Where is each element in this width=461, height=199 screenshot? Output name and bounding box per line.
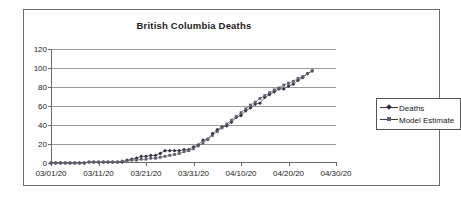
series-deaths xyxy=(49,69,314,165)
data-point xyxy=(211,134,214,137)
x-axis-tick-label: 04/10/20 xyxy=(225,169,256,178)
data-point xyxy=(206,138,209,141)
chart-title: British Columbia Deaths xyxy=(24,20,364,31)
data-point xyxy=(263,94,266,97)
data-point xyxy=(111,161,114,164)
data-point xyxy=(173,153,176,156)
series-plot xyxy=(51,49,336,163)
data-point xyxy=(163,149,167,153)
y-axis-tick-label: 120 xyxy=(34,45,47,54)
data-point xyxy=(278,87,281,90)
data-point xyxy=(301,75,304,78)
data-point xyxy=(297,77,300,80)
data-point xyxy=(254,101,257,104)
data-point xyxy=(149,157,152,160)
data-point xyxy=(268,91,271,94)
data-point xyxy=(287,84,291,88)
data-point xyxy=(192,147,195,150)
y-axis-tick-label: 40 xyxy=(38,121,47,130)
x-axis-tick-mark xyxy=(336,162,337,166)
plot-inner: 020406080100120 03/01/2003/11/2003/21/20… xyxy=(51,49,336,163)
legend-item-model-estimate: Model Estimate xyxy=(379,114,457,126)
data-point xyxy=(69,162,72,165)
data-point xyxy=(202,142,205,145)
data-point xyxy=(221,126,224,129)
data-point xyxy=(144,154,148,158)
data-point xyxy=(168,154,171,157)
data-point xyxy=(235,115,238,118)
data-point xyxy=(158,152,162,156)
data-point xyxy=(64,162,67,165)
data-point xyxy=(159,156,162,159)
data-point xyxy=(273,88,276,91)
data-point xyxy=(126,160,129,163)
data-point xyxy=(244,107,247,110)
data-point xyxy=(187,149,190,152)
y-axis-tick-label: 60 xyxy=(38,102,47,111)
data-point xyxy=(154,154,158,158)
data-point xyxy=(197,145,200,148)
data-point xyxy=(88,161,91,164)
chart-frame: British Columbia Deaths 020406080100120 … xyxy=(23,9,440,186)
data-point xyxy=(149,154,153,158)
data-point xyxy=(50,162,53,165)
data-point xyxy=(287,82,290,85)
data-point xyxy=(78,162,81,165)
data-point xyxy=(59,162,62,165)
data-point xyxy=(107,161,110,164)
legend-label-deaths: Deaths xyxy=(399,104,424,113)
data-point xyxy=(121,160,124,163)
y-axis-tick-label: 20 xyxy=(38,140,47,149)
data-point xyxy=(102,161,105,164)
y-axis-tick-label: 100 xyxy=(34,64,47,73)
data-point xyxy=(145,158,148,161)
data-point xyxy=(311,69,314,72)
data-point xyxy=(225,123,228,126)
data-point xyxy=(240,111,243,114)
x-axis-tick-label: 03/11/20 xyxy=(83,169,114,178)
data-point xyxy=(83,162,86,165)
data-point xyxy=(259,97,262,100)
data-point xyxy=(92,161,95,164)
data-point xyxy=(135,159,138,162)
x-axis-tick-label: 03/21/20 xyxy=(130,169,161,178)
data-point xyxy=(177,149,181,153)
y-axis-tick-label: 80 xyxy=(38,83,47,92)
data-point xyxy=(116,161,119,164)
data-point xyxy=(54,162,57,165)
legend-marker-square-icon xyxy=(379,115,399,125)
data-point xyxy=(168,149,172,153)
data-point xyxy=(306,72,309,75)
x-axis-tick-label: 04/20/20 xyxy=(273,169,304,178)
data-point xyxy=(178,152,181,155)
data-point xyxy=(183,150,186,153)
data-point xyxy=(140,158,143,161)
data-point xyxy=(164,155,167,158)
data-point xyxy=(154,157,157,160)
y-axis-tick-label: 0 xyxy=(43,159,47,168)
data-point xyxy=(282,84,285,87)
legend-item-deaths: Deaths xyxy=(379,102,457,114)
data-point xyxy=(173,149,177,153)
data-point xyxy=(292,80,295,83)
data-point xyxy=(139,154,143,158)
legend-label-model-estimate: Model Estimate xyxy=(399,116,454,125)
data-point xyxy=(249,104,252,107)
data-point xyxy=(97,161,100,164)
data-point xyxy=(282,87,286,91)
x-axis-tick-label: 03/31/20 xyxy=(178,169,209,178)
chart-legend: Deaths Model Estimate xyxy=(376,98,461,130)
data-point xyxy=(130,159,133,162)
data-point xyxy=(216,130,219,133)
legend-marker-diamond-icon xyxy=(379,103,399,113)
series-line xyxy=(51,71,312,163)
x-axis-tick-label: 03/01/20 xyxy=(35,169,66,178)
data-point xyxy=(230,119,233,122)
x-axis-tick-label: 04/30/20 xyxy=(320,169,351,178)
data-point xyxy=(73,162,76,165)
plot-area: 020406080100120 03/01/2003/11/2003/21/20… xyxy=(51,49,336,163)
series-line xyxy=(51,71,312,163)
